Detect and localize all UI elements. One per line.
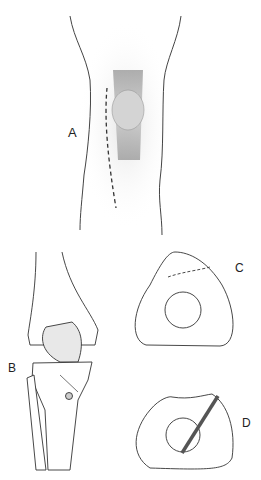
panel-label-d: D [242, 416, 251, 430]
panel-a-knee [70, 16, 181, 235]
panel-d-cross-section [136, 394, 233, 469]
panel-label-c: C [235, 261, 244, 275]
panel-label-b: B [8, 361, 16, 375]
figure-canvas: A B C D [0, 0, 261, 480]
panel-b-bones [27, 252, 98, 470]
panel-label-a: A [68, 125, 77, 140]
panel-c-cross-section [135, 252, 233, 346]
